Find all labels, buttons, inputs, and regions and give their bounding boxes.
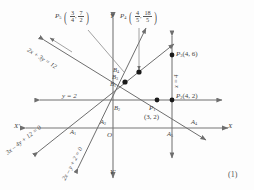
comma-P4: , (140, 12, 142, 19)
intercept-label-B1: B1 (110, 80, 116, 88)
paren-open-P4: ( (129, 14, 132, 20)
intercept-A1-sub: 1 (74, 131, 76, 136)
point-dot-P5 (122, 79, 127, 84)
intercept-A4-sub: 4 (195, 121, 197, 126)
intercept-label-A5: A5 (167, 130, 173, 138)
paren-close-P4: ) (154, 14, 157, 20)
point-dot-P1 (155, 98, 160, 103)
figure-canvas: Y Y' X X' O 2x + 3y = 12 3x – 4y + 12 = … (0, 0, 254, 190)
axis-label-x-negative: X' (14, 122, 20, 130)
line-label-y-2: y = 2 (62, 92, 77, 100)
point-label-P5-sub: 5 (59, 15, 61, 20)
line-label-x-4: x = 4 (172, 74, 179, 88)
intercept-A5-sub: 5 (171, 133, 173, 138)
intercept-label-A2: A2 (100, 118, 106, 126)
line-3x-4y-12 (38, 44, 174, 152)
geometry-drawing (0, 0, 254, 190)
point-dot-P4 (136, 69, 141, 74)
point-label-P2-coords: (4, 2) (182, 92, 197, 100)
point-label-P5: P5 ( 3 4 , 7 2 ) (55, 10, 90, 23)
paren-close-P5: ) (86, 14, 89, 20)
point-label-P1: P1 (149, 104, 155, 112)
leader-p5-arrow (50, 38, 72, 52)
origin-label: O (107, 131, 112, 139)
point-label-P4: P4 ( 4 5 , 18 5 ) (120, 10, 158, 23)
fraction-P5-y: 7 2 (78, 10, 83, 23)
point-label-P1-coords: (3, 2) (144, 113, 159, 121)
intercept-label-A4: A4 (191, 118, 197, 126)
intercept-label-B2: B2 (114, 104, 120, 112)
point-label-P4-sub: 4 (124, 15, 126, 20)
axis-label-y-positive: Y (110, 12, 114, 20)
line-2x-y-2 (78, 28, 146, 168)
comma-P5: , (75, 12, 77, 19)
point-label-P3: P3(4, 6) (176, 50, 198, 58)
point-label-P1-sub: 1 (153, 107, 155, 112)
point-dot-P3 (170, 53, 175, 58)
axis-label-y-negative: Y' (110, 168, 115, 176)
paren-open-P5: ( (64, 14, 67, 20)
intercept-A2-sub: 2 (104, 121, 106, 126)
axis-label-x-positive: X (228, 122, 232, 130)
fraction-P4-y: 18 5 (143, 10, 151, 23)
figure-caption: (1) (228, 170, 237, 179)
point-label-P2: P2(4, 2) (176, 92, 198, 100)
point-label-P3-coords: (4, 6) (182, 50, 197, 58)
intercept-label-A1: A1 (70, 128, 76, 136)
intercept-B2-sub: 2 (118, 107, 120, 112)
intercept-B1-sub: 1 (114, 83, 116, 88)
intercept-B3-sub: 3 (116, 76, 118, 81)
point-dot-P2 (170, 98, 175, 103)
